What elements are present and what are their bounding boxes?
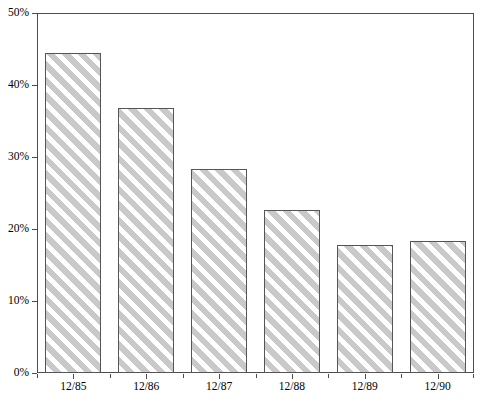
x-tick-label: 12/86 xyxy=(133,380,159,392)
bar xyxy=(45,53,101,373)
bar-chart: 0%10%20%30%40%50% 12/8512/8612/8712/8812… xyxy=(0,0,480,403)
x-tick-mark xyxy=(146,374,147,379)
bar xyxy=(264,210,320,373)
bar xyxy=(410,241,466,373)
x-tick-mark-boundary xyxy=(183,374,184,378)
x-tick-label: 12/87 xyxy=(206,380,232,392)
x-tick-mark-boundary xyxy=(256,374,257,378)
x-tick-label: 12/85 xyxy=(60,380,86,392)
bar xyxy=(337,245,393,373)
x-tick-mark-boundary xyxy=(401,374,402,378)
x-tick-label: 12/88 xyxy=(279,380,305,392)
x-tick-mark xyxy=(73,374,74,379)
x-tick-mark xyxy=(292,374,293,379)
bar xyxy=(118,108,174,373)
x-tick-mark xyxy=(438,374,439,379)
x-tick-mark xyxy=(365,374,366,379)
x-tick-label: 12/90 xyxy=(424,380,450,392)
x-tick-mark xyxy=(219,374,220,379)
x-tick-mark-boundary xyxy=(37,374,38,378)
bar xyxy=(191,169,247,373)
x-tick-mark-boundary xyxy=(110,374,111,378)
x-tick-mark-boundary xyxy=(328,374,329,378)
x-tick-mark-boundary xyxy=(473,374,474,378)
x-tick-label: 12/89 xyxy=(352,380,378,392)
